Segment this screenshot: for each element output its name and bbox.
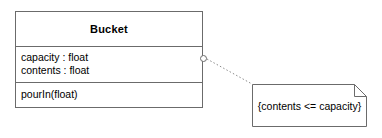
uml-class-bucket[interactable]: Bucket capacity : float contents : float… [15,11,203,108]
class-attributes-compartment: capacity : float contents : float [16,47,202,83]
uml-note[interactable]: {contents <= capacity} [252,84,367,127]
connector-anchor-circle [200,55,207,62]
class-operations-compartment: pourIn(float) [16,83,202,107]
note-constraint-text: {contents <= capacity} [252,84,367,127]
attribute-row: contents : float [21,64,202,77]
attribute-row: capacity : float [21,51,202,64]
class-name-compartment: Bucket [16,12,202,47]
operation-row: pourIn(float) [21,88,202,101]
class-name-label: Bucket [90,23,128,35]
diagram-canvas: Bucket capacity : float contents : float… [0,0,382,138]
